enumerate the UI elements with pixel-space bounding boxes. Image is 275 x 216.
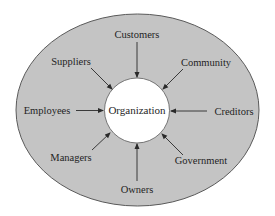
organization-label: Organization: [108, 104, 166, 116]
stakeholder-label-managers: Managers: [50, 152, 91, 163]
stakeholder-label-government: Government: [175, 155, 228, 166]
stakeholder-label-customers: Customers: [115, 29, 160, 40]
stakeholder-diagram: Organization Customers Suppliers Communi…: [0, 0, 275, 216]
stakeholder-label-owners: Owners: [121, 184, 154, 195]
stakeholder-label-suppliers: Suppliers: [51, 56, 91, 67]
stakeholder-label-employees: Employees: [24, 105, 71, 116]
stakeholder-label-creditors: Creditors: [214, 106, 253, 117]
stakeholder-label-community: Community: [181, 57, 232, 68]
